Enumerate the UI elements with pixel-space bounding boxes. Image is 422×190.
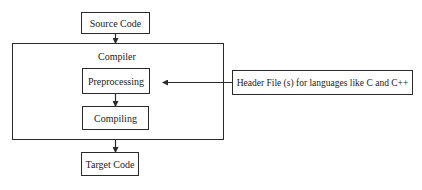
target-code-label: Target Code — [86, 159, 135, 170]
compiling-label: Compiling — [94, 113, 137, 124]
compiler-group-label: Compiler — [98, 51, 136, 62]
preprocessing-node: Preprocessing — [82, 68, 150, 94]
header-files-label: Header File (s) for languages like C and… — [237, 78, 409, 88]
source-code-node: Source Code — [81, 12, 150, 34]
header-files-node: Header File (s) for languages like C and… — [232, 70, 413, 95]
compiling-node: Compiling — [82, 106, 149, 130]
target-code-node: Target Code — [81, 152, 139, 176]
source-code-label: Source Code — [90, 18, 141, 29]
preprocessing-label: Preprocessing — [88, 76, 144, 87]
